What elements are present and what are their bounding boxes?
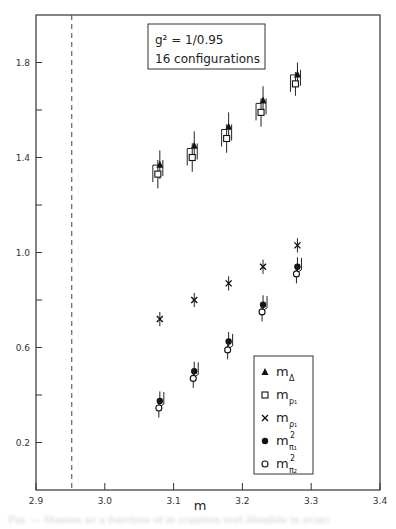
svg-text:ρ₁: ρ₁	[289, 420, 297, 429]
mass-vs-m-chart: 2.93.03.13.23.33.4 0.20.61.01.41.8 g² = …	[0, 0, 396, 529]
y-tick-label: 0.6	[16, 343, 31, 353]
svg-text:m: m	[276, 456, 289, 471]
annotation-configurations: 16 configurations	[155, 52, 260, 66]
x-tick-label: 3.3	[304, 496, 318, 506]
series-1	[153, 70, 301, 189]
x-tick-label: 3.4	[373, 496, 388, 506]
svg-text:2: 2	[290, 454, 295, 463]
svg-text:m: m	[276, 364, 289, 379]
y-tick-label: 1.8	[16, 58, 31, 68]
legend: mΔmp₁mρ₁mπ₁2mπ₂2	[254, 356, 313, 475]
annotation-coupling: g² = 1/0.95	[155, 33, 224, 47]
y-tick-label: 0.2	[16, 438, 30, 448]
y-tick-label: 1.0	[16, 248, 31, 258]
svg-text:π₂: π₂	[289, 466, 297, 475]
svg-text:π₁: π₁	[289, 443, 297, 452]
svg-text:m: m	[276, 410, 289, 425]
y-axis: 0.20.61.01.41.8	[16, 58, 42, 448]
series-0	[156, 63, 301, 179]
svg-text:Δ: Δ	[289, 374, 295, 383]
y-tick-label: 1.4	[16, 153, 31, 163]
x-tick-label: 3.1	[166, 496, 180, 506]
figure-caption: Fig. — Masses as a function of m (captio…	[8, 514, 388, 524]
plot-frame	[36, 15, 380, 490]
x-axis: 2.93.03.13.23.33.4	[29, 483, 388, 506]
svg-text:m: m	[276, 387, 289, 402]
x-tick-label: 2.9	[29, 496, 44, 506]
x-tick-label: 3.0	[98, 496, 113, 506]
x-tick-label: 3.2	[235, 496, 249, 506]
annotation-box: g² = 1/0.95 16 configurations	[148, 24, 265, 69]
svg-text:p₁: p₁	[289, 397, 297, 406]
x-axis-label: m	[194, 498, 207, 513]
series-2	[157, 238, 301, 326]
svg-text:m: m	[276, 433, 289, 448]
svg-text:2: 2	[290, 431, 295, 440]
